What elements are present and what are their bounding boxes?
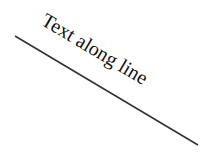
diagram-canvas: Text along line [0, 0, 212, 154]
line-label: Text along line [37, 9, 152, 90]
